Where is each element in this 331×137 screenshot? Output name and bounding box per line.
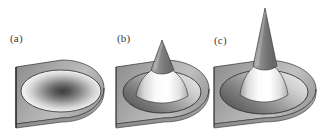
panel-c: (c): [208, 0, 331, 137]
panel-b: (b): [108, 0, 218, 137]
dimple-a: [21, 70, 101, 112]
panel-a-artwork: [0, 0, 110, 137]
figure-root: (a): [0, 0, 331, 137]
panel-c-artwork: [208, 0, 331, 137]
panel-b-artwork: [108, 0, 218, 137]
cone-c: [240, 8, 288, 102]
panel-a: (a): [0, 0, 110, 137]
